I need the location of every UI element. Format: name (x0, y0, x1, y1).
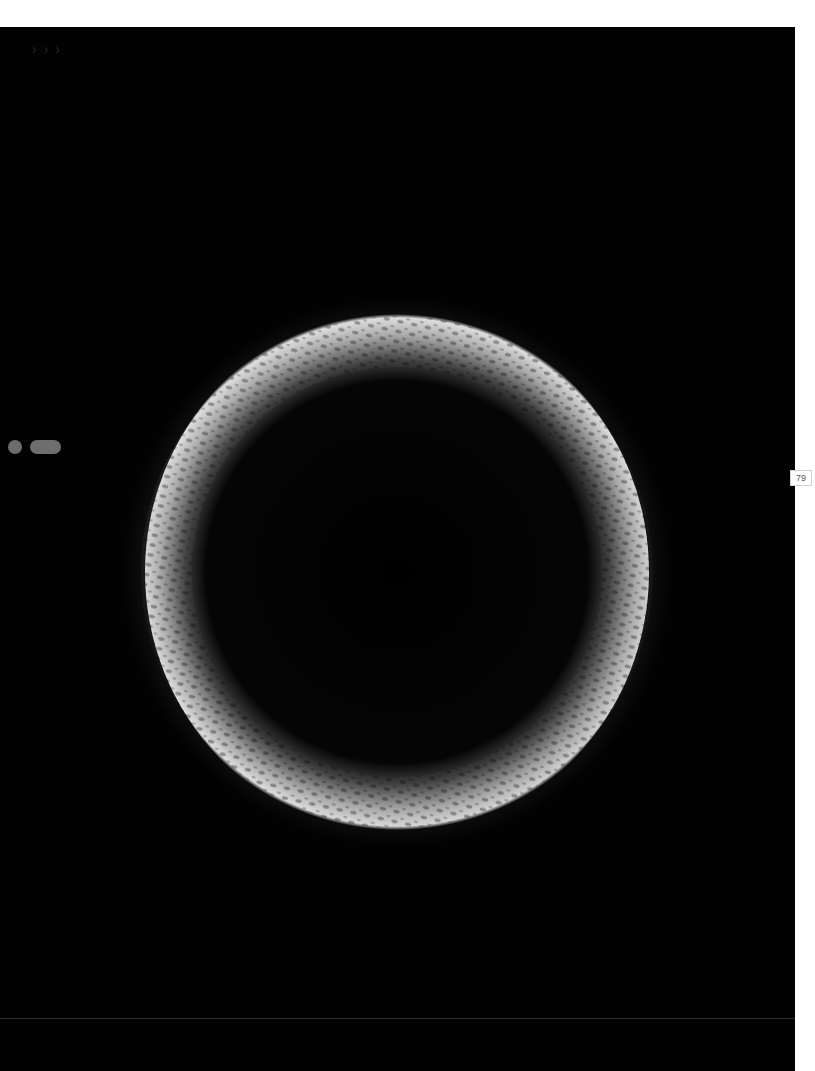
micrograph-plate: › › › (0, 27, 795, 1071)
page-right-margin (795, 0, 815, 1071)
indicator-pill-button[interactable] (30, 440, 61, 454)
page-top-margin (0, 0, 815, 27)
page-number: 79 (790, 470, 812, 486)
ring-particle-image (0, 27, 795, 1071)
bottom-divider (0, 1018, 795, 1019)
indicator-dot-icon[interactable] (8, 440, 22, 454)
